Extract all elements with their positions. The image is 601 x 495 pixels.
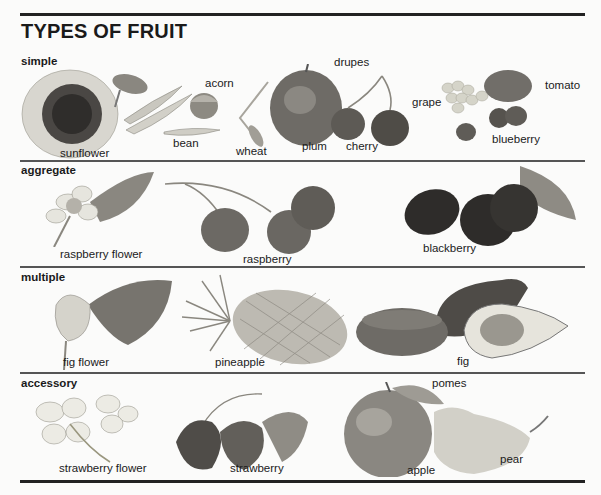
raspberry-illustration	[165, 172, 340, 257]
wheat-illustration	[232, 80, 272, 150]
top-rule	[20, 13, 585, 16]
blackberry-illustration	[400, 162, 580, 252]
label-fig: fig	[457, 355, 469, 367]
label-blueberry: blueberry	[492, 133, 540, 145]
bean-acorn-illustration	[122, 80, 232, 140]
label-cherry: cherry	[346, 140, 378, 152]
drupes-illustration	[270, 64, 420, 154]
bottom-rule	[20, 480, 585, 483]
label-fig-flower: fig flower	[63, 356, 109, 368]
raspberry-flower-illustration	[30, 172, 155, 247]
label-strawberry: strawberry	[230, 462, 284, 474]
label-bean: bean	[173, 137, 199, 149]
label-grape: grape	[412, 96, 441, 108]
label-tomato: tomato	[545, 79, 580, 91]
label-strawberry-flower: strawberry flower	[59, 462, 147, 474]
label-apple: apple	[407, 464, 435, 476]
label-pineapple: pineapple	[215, 356, 265, 368]
label-drupes: drupes	[334, 56, 369, 68]
section-label-accessory: accessory	[21, 377, 77, 389]
label-wheat: wheat	[236, 145, 267, 157]
label-pomes: pomes	[432, 377, 467, 389]
label-sunflower: sunflower	[60, 147, 109, 159]
label-pear: pear	[500, 453, 523, 465]
pineapple-illustration	[180, 271, 350, 371]
label-plum: plum	[302, 140, 327, 152]
label-raspberry-flower: raspberry flower	[60, 248, 142, 260]
label-raspberry: raspberry	[243, 253, 292, 265]
section-divider	[20, 266, 585, 268]
label-acorn: acorn	[205, 77, 234, 89]
fig-illustration	[352, 274, 572, 364]
page-title: TYPES OF FRUIT	[21, 20, 187, 43]
label-blackberry: blackberry	[423, 242, 476, 254]
strawberry-flower-illustration	[30, 390, 140, 465]
section-divider	[20, 372, 585, 374]
